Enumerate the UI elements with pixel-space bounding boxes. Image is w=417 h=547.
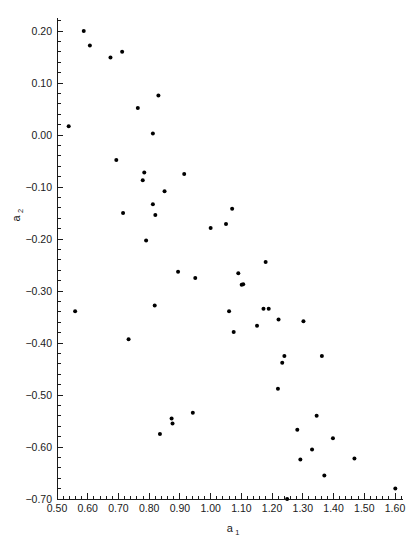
data-point: [276, 387, 280, 391]
data-point: [151, 131, 155, 135]
data-point: [176, 270, 180, 274]
y-tick-label-6: −0.40: [25, 337, 52, 349]
y-axis-title-subscript: 2: [16, 209, 25, 213]
data-point: [171, 422, 175, 426]
data-point: [67, 124, 71, 128]
y-axis-tick-labels: 0.200.100.00−0.10−0.20−0.30−0.40−0.50−0.…: [25, 25, 52, 505]
data-point: [320, 354, 324, 358]
data-point: [261, 307, 265, 311]
y-axis-title: a2: [10, 209, 25, 222]
data-point: [230, 207, 234, 211]
x-tick-label-4: 0.90: [170, 502, 191, 514]
y-axis-title-base: a: [10, 215, 22, 222]
data-point: [153, 304, 157, 308]
data-point: [232, 330, 236, 334]
x-axis-tick-labels: 0.500.600.700.800.901.001.101.201.301.40…: [47, 502, 406, 514]
x-tick-label-7: 1.20: [262, 502, 283, 514]
y-tick-label-4: −0.20: [25, 233, 52, 245]
x-tick-label-11: 1.60: [385, 502, 406, 514]
y-tick-label-5: −0.30: [25, 285, 52, 297]
data-point: [153, 213, 157, 217]
data-point: [108, 56, 112, 60]
data-point: [120, 50, 124, 54]
data-point: [209, 226, 213, 230]
data-point: [170, 416, 174, 420]
data-point: [144, 239, 148, 243]
x-tick-label-6: 1.10: [231, 502, 252, 514]
x-tick-label-1: 0.60: [78, 502, 99, 514]
y-tick-label-1: 0.10: [32, 77, 53, 89]
x-axis-title-base: a: [227, 522, 234, 534]
x-tick-label-2: 0.70: [108, 502, 129, 514]
data-point: [295, 428, 299, 432]
data-point: [142, 170, 146, 174]
x-tick-label-5: 1.00: [200, 502, 221, 514]
data-point: [121, 211, 125, 215]
y-tick-label-9: −0.70: [25, 493, 52, 505]
x-axis-ticks: [57, 493, 401, 499]
data-point: [331, 436, 335, 440]
data-point: [322, 474, 326, 478]
data-point: [282, 354, 286, 358]
data-point: [236, 271, 240, 275]
data-point: [393, 487, 397, 491]
data-point: [264, 260, 268, 264]
data-point: [315, 414, 319, 418]
y-axis-title-group: a2: [10, 209, 25, 222]
data-point: [193, 276, 197, 280]
scatter-plot-figure: 0.500.600.700.800.901.001.101.201.301.40…: [0, 0, 417, 547]
data-point: [156, 93, 160, 97]
data-point: [136, 106, 140, 110]
data-point: [88, 44, 92, 48]
data-point: [298, 457, 302, 461]
data-point: [182, 172, 186, 176]
data-point: [141, 178, 145, 182]
data-point: [82, 29, 86, 33]
x-axis-title-subscript: 1: [235, 528, 239, 537]
data-point: [255, 324, 259, 328]
y-tick-label-2: 0.00: [32, 129, 53, 141]
x-tick-label-10: 1.50: [354, 502, 375, 514]
data-point: [301, 319, 305, 323]
y-tick-label-8: −0.60: [25, 441, 52, 453]
x-tick-label-8: 1.30: [293, 502, 314, 514]
data-point: [191, 411, 195, 415]
data-point: [224, 222, 228, 226]
y-tick-label-0: 0.20: [32, 25, 53, 37]
data-point: [114, 158, 118, 162]
data-point: [285, 497, 289, 501]
x-axis-title: a1: [227, 522, 240, 537]
scatter-plot-canvas: 0.500.600.700.800.901.001.101.201.301.40…: [0, 0, 417, 547]
x-tick-label-3: 0.80: [139, 502, 160, 514]
y-axis-ticks: [57, 21, 63, 499]
y-tick-label-7: −0.50: [25, 389, 52, 401]
data-point: [158, 432, 162, 436]
axes-group: [57, 18, 403, 499]
data-point: [151, 202, 155, 206]
x-tick-label-9: 1.40: [323, 502, 344, 514]
data-point: [227, 309, 231, 313]
data-point: [163, 189, 167, 193]
data-point: [310, 448, 314, 452]
data-point: [277, 318, 281, 322]
y-tick-label-3: −0.10: [25, 181, 52, 193]
data-point: [267, 307, 271, 311]
data-point: [280, 361, 284, 365]
data-point: [352, 456, 356, 460]
data-point: [127, 337, 131, 341]
data-point: [241, 282, 245, 286]
data-points-group: [67, 29, 398, 501]
data-point: [73, 309, 77, 313]
